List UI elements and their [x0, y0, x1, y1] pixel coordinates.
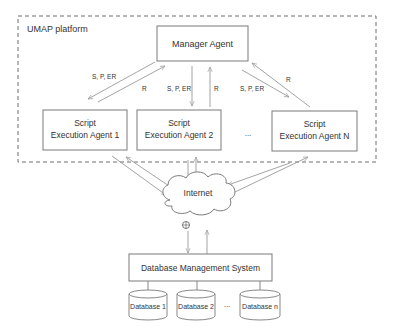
manager-agentN-edges: S, P, ER R [240, 63, 310, 107]
edge-label-agent1-up: R [142, 85, 147, 92]
agent-2-line2: Execution Agent 2 [145, 130, 214, 140]
manager-agent2-edges: S, P, ER R [167, 66, 219, 107]
script-execution-agent-1-node: Script Execution Agent 1 [43, 110, 127, 150]
script-execution-agent-N-node: Script Execution Agent N [272, 111, 357, 151]
architecture-diagram: UMAP platform Manager Agent S, P, ER R S… [0, 0, 394, 333]
manager-agent1-edges: S, P, ER R [88, 62, 165, 102]
database-2-label: Database 2 [178, 303, 214, 310]
edge-label-agentN-down: S, P, ER [240, 85, 264, 92]
agent-2-line1: Script [168, 118, 190, 128]
agent-ellipsis: ... [245, 129, 252, 138]
internet-cloud: Internet [163, 172, 235, 229]
database-n-cylinder: Database n [240, 290, 280, 320]
script-execution-agent-2-node: Script Execution Agent 2 [137, 110, 221, 150]
edge-label-agent2-up: R [214, 85, 219, 92]
database-ellipsis: ... [224, 300, 231, 309]
globe-icon [183, 222, 190, 229]
database-2-cylinder: Database 2 [177, 290, 215, 320]
agent-N-line1: Script [304, 119, 326, 129]
manager-agent-node: Manager Agent [157, 26, 248, 61]
platform-label: UMAP platform [27, 24, 88, 34]
dbms-node: Database Management System [129, 254, 272, 281]
edge-label-agentN-up: R [286, 76, 291, 83]
database-1-label: Database 1 [130, 303, 166, 310]
edge-label-agent1-down: S, P, ER [92, 73, 116, 80]
database-n-label: Database n [242, 303, 278, 310]
agent-N-line2: Execution Agent N [280, 131, 350, 141]
agent-1-line1: Script [74, 118, 96, 128]
database-1-cylinder: Database 1 [129, 290, 167, 320]
internet-dbms-edges [188, 230, 207, 254]
edge-label-agent2-down: S, P, ER [167, 85, 191, 92]
agent-1-line2: Execution Agent 1 [51, 130, 120, 140]
manager-agent-label: Manager Agent [172, 39, 234, 49]
dbms-label: Database Management System [141, 263, 260, 273]
internet-label: Internet [184, 188, 213, 198]
dbms-db-connectors [148, 281, 260, 290]
